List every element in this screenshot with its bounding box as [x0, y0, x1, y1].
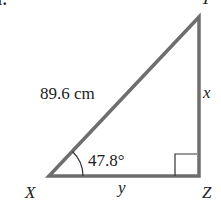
right-angle-marker [175, 154, 197, 176]
vertex-label-y: Y [201, 0, 212, 8]
triangle-diagram: r. Y 89.6 cm x 47.8° y X Z [0, 0, 221, 221]
triangle-svg: r. Y 89.6 cm x 47.8° y X Z [0, 0, 221, 221]
vertex-label-z: Z [202, 183, 212, 202]
vertex-label-x: X [24, 183, 36, 202]
problem-marker: r. [0, 0, 7, 8]
side-x-label: x [202, 83, 211, 102]
angle-arc-x [73, 152, 84, 177]
angle-x-label: 47.8° [88, 151, 125, 170]
side-y-label: y [116, 178, 126, 197]
hypotenuse-label: 89.6 cm [40, 84, 95, 103]
